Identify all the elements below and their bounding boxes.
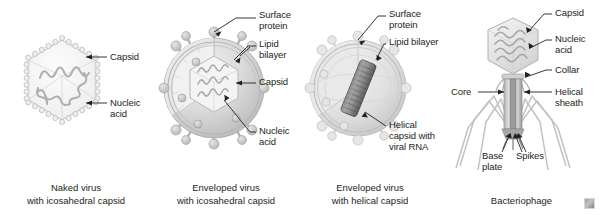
label-helical-sheath: Helical sheath [555,86,603,108]
leader-lines [358,16,386,126]
caption-bacteriophage: Bacteriophage [440,195,603,208]
helical-capsid-rod [340,59,377,117]
label-helical-capsid: Helical capsid with viral RNA [389,119,435,152]
label-surface-protein: Surface protein [259,9,291,31]
label-nucleic-acid: Nucleic acid [259,125,289,147]
viral-envelope-sphere [164,38,264,138]
surface-protein-knobs [159,27,269,149]
label-surface-protein: Surface protein [389,8,421,30]
label-capsid: Capsid [259,76,288,87]
capsid-hexagon [28,40,96,120]
capsid-facet-lines [28,40,96,120]
capsomere-beads [24,35,100,124]
leader-lines [86,57,107,103]
leader-lines [478,14,552,152]
virus-structure-figure: Capsid Nucleic acid Naked virus with ico… [0,0,603,215]
phage-nucleic-acid [495,27,527,62]
caption-enveloped-icosahedral: Enveloped virus with icosahedral capsid [152,182,300,207]
leader-arrowheads [86,54,92,105]
panel-naked-virus: Capsid Nucleic acid Naked virus with ico… [0,0,152,215]
label-spikes: Spikes [516,150,544,161]
label-lipid-bilayer: Lipid bilayer [259,38,300,60]
collar-whiskers [496,79,530,92]
naked-virus-illustration [0,0,152,182]
inner-capsid-hexagon [190,56,238,112]
envelope-cutaway [164,36,260,134]
tail-core [511,79,516,129]
nucleic-acid-strand [37,67,89,105]
leader-lines [214,18,256,132]
helical-sheath [504,79,522,129]
inner-nucleic-acid [198,65,228,96]
label-nucleic-acid: Nucleic acid [555,33,585,55]
surface-protein-spikes-back [164,32,264,144]
base-plate-spikes [503,139,523,150]
label-capsid: Capsid [110,51,139,62]
watermark-logo [584,198,595,209]
phage-head-capsid [488,18,538,74]
label-core: Core [451,86,471,97]
leader-arrowheads [498,27,534,139]
tail-fibers [456,96,570,170]
envelope-cutaway [306,38,402,132]
label-base-plate: Base plate [482,150,503,172]
label-collar: Collar [555,64,579,75]
panel-bacteriophage: Capsid Nucleic acid Collar Helical sheat… [440,0,603,215]
label-capsid: Capsid [555,7,584,18]
base-plate [502,129,524,139]
caption-enveloped-helical: Enveloped virus with helical capsid [300,182,440,207]
panel-enveloped-icosahedral: Surface protein Lipid bilayer Capsid Nuc… [152,0,300,215]
matrix-ticks [172,42,214,110]
phage-collar [496,74,530,92]
panel-enveloped-helical: Surface protein Lipid bilayer Helical ca… [300,0,440,215]
leader-arrowheads [216,31,243,101]
caption-naked-virus: Naked virus with icosahedral capsid [0,182,152,207]
leader-arrowheads [359,41,382,118]
label-lipid-bilayer: Lipid bilayer [389,36,438,47]
phage-tail [504,79,522,129]
label-nucleic-acid: Nucleic acid [110,97,140,119]
